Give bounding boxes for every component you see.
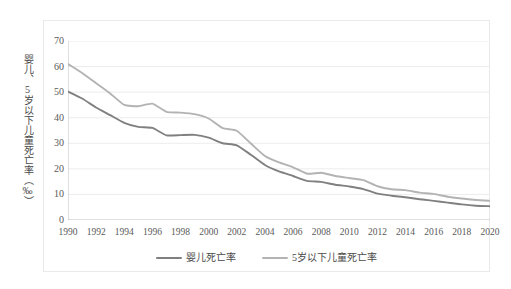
- y-tick-label: 50: [42, 87, 64, 97]
- y-tick-label: 10: [42, 189, 64, 199]
- series-line: [68, 64, 490, 201]
- x-tick-label: 2000: [199, 226, 218, 238]
- x-tick-label: 2002: [227, 226, 246, 238]
- y-tick-label: 70: [42, 36, 64, 46]
- x-tick-label: 2018: [452, 226, 471, 238]
- x-tick-label: 1998: [171, 226, 190, 238]
- y-tick-label: 30: [42, 138, 64, 148]
- legend-item[interactable]: 婴儿死亡率: [156, 252, 236, 264]
- legend-item[interactable]: 5岁以下儿童死亡率: [262, 252, 377, 264]
- x-tick-label: 2004: [255, 226, 274, 238]
- x-tick-label: 2006: [284, 226, 303, 238]
- plot-area: [68, 41, 490, 220]
- chart-legend: 婴儿死亡率5岁以下儿童死亡率: [43, 250, 490, 266]
- x-tick-label: 2012: [368, 226, 387, 238]
- x-tick-label: 2010: [340, 226, 359, 238]
- y-axis-title: 婴儿、5岁以下儿童死亡率（‰）: [8, 30, 34, 230]
- x-tick-label: 1990: [59, 226, 78, 238]
- y-axis-tick-labels: 706050403020100: [40, 41, 64, 220]
- x-tick-label: 2016: [424, 226, 443, 238]
- x-axis-tick-labels: 1990199219941996199820002002200420062008…: [68, 226, 490, 240]
- y-tick-label: 20: [42, 164, 64, 174]
- y-tick-label: 60: [42, 62, 64, 72]
- legend-label: 5岁以下儿童死亡率: [292, 252, 377, 264]
- x-tick-label: 1996: [143, 226, 162, 238]
- legend-line-swatch: [156, 257, 182, 259]
- series-lines: [68, 64, 490, 206]
- chart-root: 婴儿、5岁以下儿童死亡率（‰） 706050403020100 19901992…: [0, 0, 511, 289]
- x-tick-label: 2008: [312, 226, 331, 238]
- legend-line-swatch: [262, 257, 288, 259]
- y-tick-label: 0: [42, 215, 64, 225]
- x-tick-label: 1994: [115, 226, 134, 238]
- legend-label: 婴儿死亡率: [186, 252, 236, 264]
- y-tick-label: 40: [42, 113, 64, 123]
- x-tick-label: 1992: [87, 226, 106, 238]
- x-tick-label: 2014: [396, 226, 415, 238]
- x-tick-label: 2020: [481, 226, 500, 238]
- line-chart-svg: [68, 41, 490, 220]
- series-line: [68, 92, 490, 207]
